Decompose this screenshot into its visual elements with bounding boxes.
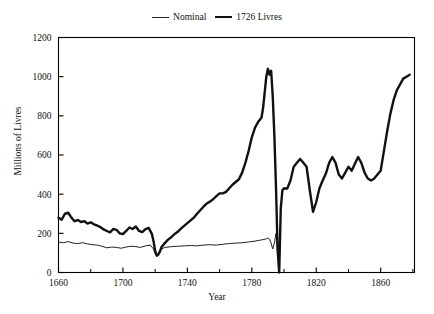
x-tick-label: 1740 [178, 278, 197, 288]
x-tick-label: 1820 [307, 278, 326, 288]
y-tick-label: 1200 [33, 33, 52, 43]
data-series-group [59, 69, 410, 273]
y-tick-label: 800 [37, 111, 52, 121]
series-line-1726-livres [59, 69, 410, 273]
y-axis-ticks [59, 38, 64, 273]
x-axis-tick-labels: 166017001740178018201860 [49, 278, 390, 288]
x-tick-label: 1660 [49, 278, 68, 288]
x-tick-label: 1860 [371, 278, 390, 288]
y-tick-label: 200 [37, 229, 52, 239]
x-tick-label: 1780 [242, 278, 261, 288]
y-tick-label: 1000 [33, 72, 52, 82]
y-tick-label: 600 [37, 150, 52, 160]
y-axis-tick-labels: 020040060080010001200 [33, 33, 52, 278]
plot-area: 166017001740178018201860 020040060080010… [0, 0, 434, 314]
chart-figure: Nominal 1726 Livres 16601700174017801820… [0, 0, 434, 314]
y-tick-label: 0 [47, 268, 52, 278]
y-tick-label: 400 [37, 190, 52, 200]
plot-frame [59, 38, 415, 273]
x-axis-ticks [59, 268, 413, 273]
x-axis-title: Year [0, 292, 434, 302]
x-tick-label: 1700 [113, 278, 132, 288]
y-axis-title: Millions of Livres [13, 86, 23, 196]
